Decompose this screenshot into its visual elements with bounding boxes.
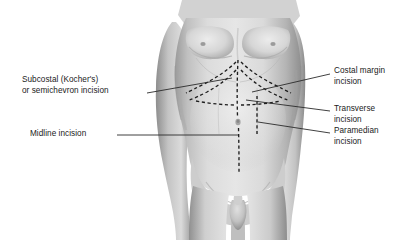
right-nipple xyxy=(270,42,275,46)
label-midline-incision: Midline incision xyxy=(30,129,86,140)
left-nipple xyxy=(200,42,205,46)
label-transverse-incision: Transverse incision xyxy=(334,104,375,125)
label-costal-margin-line-1: Costal margin xyxy=(334,66,385,77)
label-paramedian-line-1: Paramedian xyxy=(334,126,379,137)
label-paramedian-line-2: incision xyxy=(334,137,379,148)
label-subcostal-line-2: or semichevron incision xyxy=(22,86,109,97)
label-midline-line-1: Midline incision xyxy=(30,129,86,140)
label-subcostal-line-1: Subcostal (Kocher's) xyxy=(22,75,109,86)
sternum-shading xyxy=(237,28,238,62)
label-paramedian-incision: Paramedian incision xyxy=(334,126,379,147)
label-subcostal-incision: Subcostal (Kocher's) or semichevron inci… xyxy=(22,75,109,96)
right-thigh xyxy=(247,186,287,240)
label-costal-margin-line-2: incision xyxy=(334,77,385,88)
label-costal-margin-incision: Costal margin incision xyxy=(334,66,385,87)
left-thigh xyxy=(189,186,229,240)
label-transverse-line-2: incision xyxy=(334,115,375,126)
umbilicus-core xyxy=(237,119,240,123)
body-figure xyxy=(156,0,305,240)
label-transverse-line-1: Transverse xyxy=(334,104,375,115)
